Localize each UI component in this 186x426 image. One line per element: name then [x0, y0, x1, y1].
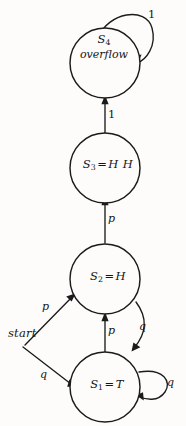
edge-s2-to-s1-arrowhead [132, 342, 141, 351]
edge-label-s2-to-s3: p [108, 213, 115, 225]
state-label-s3-subscript: 3 [91, 163, 96, 172]
state-label-s2-value: H [116, 269, 126, 283]
state-label-s3: S3=H H [60, 158, 156, 172]
edge-label-s3-to-s4: 1 [108, 108, 115, 120]
edge-label-s1-to-s2: p [108, 325, 115, 337]
state-label-s2-equals: = [103, 269, 116, 283]
state-label-s4: S4 overflow [66, 33, 142, 60]
state-label-s3-value: H H [108, 157, 133, 171]
state-label-s3-equals: = [96, 157, 109, 171]
state-diagram: S4 overflow S3=H H S2=H S1=T 1 1 p p q q… [0, 0, 186, 426]
state-label-s1-value: T [116, 377, 124, 391]
state-label-s1-name: S [90, 377, 98, 391]
state-label-s4-subscript: 4 [105, 38, 110, 47]
state-label-s2-name: S [90, 269, 98, 283]
state-label-s3-name: S [83, 157, 91, 171]
state-label-s1-equals: = [103, 377, 116, 391]
state-diagram-canvas [0, 0, 186, 426]
edge-label-start-to-s1: q [40, 369, 47, 381]
edge-label-s4-self-loop: 1 [148, 8, 155, 20]
edge-label-s1-self-loop: q [167, 377, 174, 389]
state-label-s2: S2=H [62, 270, 154, 284]
edge-label-s2-to-s1: q [139, 321, 146, 333]
state-label-s4-sublabel: overflow [66, 49, 142, 61]
state-label-s1: S1=T [60, 378, 154, 392]
start-label: start [8, 327, 37, 339]
edge-label-start-to-s2: p [42, 301, 49, 313]
